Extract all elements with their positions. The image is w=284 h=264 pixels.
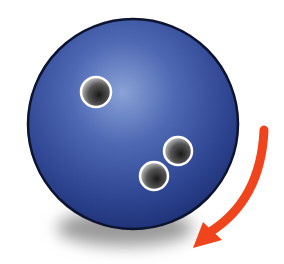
ball [28, 19, 238, 229]
bowling-ball-illustration [0, 0, 284, 264]
finger-hole [81, 77, 111, 107]
finger-hole [140, 162, 168, 190]
finger-hole [164, 137, 192, 165]
